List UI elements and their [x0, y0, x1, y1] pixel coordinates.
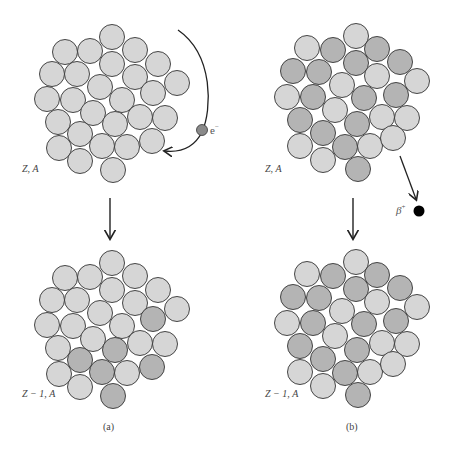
- nucleon: [307, 60, 332, 85]
- nucleon: [46, 110, 71, 135]
- nucleon: [40, 62, 65, 87]
- nucleon: [301, 311, 326, 336]
- nucleus-b-final: [275, 250, 430, 408]
- nucleon: [288, 108, 313, 133]
- nucleon: [275, 311, 300, 336]
- nucleon: [90, 134, 115, 159]
- nucleon: [288, 334, 313, 359]
- beta-decay-diagram: [0, 0, 451, 453]
- nucleon: [68, 375, 93, 400]
- nucleon: [321, 38, 346, 63]
- electron-icon: [197, 125, 208, 136]
- nucleon: [365, 37, 390, 62]
- nucleon: [123, 38, 148, 63]
- nucleon: [65, 288, 90, 313]
- nucleon: [311, 374, 336, 399]
- nucleon: [288, 360, 313, 385]
- nucleon: [68, 122, 93, 147]
- nucleon: [388, 50, 413, 75]
- nucleon: [295, 36, 320, 61]
- nucleon: [344, 250, 369, 275]
- nucleon: [47, 136, 72, 161]
- nucleon: [344, 24, 369, 49]
- nucleon: [81, 101, 106, 126]
- nucleon: [65, 62, 90, 87]
- nucleon: [78, 265, 103, 290]
- nucleon: [323, 98, 348, 123]
- nucleon: [115, 135, 140, 160]
- nucleon: [365, 263, 390, 288]
- label-b-final: Z − 1, A: [265, 388, 298, 399]
- nucleon: [288, 134, 313, 159]
- nucleon: [323, 324, 348, 349]
- nucleon: [100, 278, 125, 303]
- nucleon: [153, 332, 178, 357]
- nucleon: [40, 288, 65, 313]
- electron-label: e−: [210, 123, 219, 136]
- nucleon: [352, 312, 377, 337]
- nucleon: [53, 40, 78, 65]
- nucleon: [101, 384, 126, 409]
- nucleon: [146, 52, 171, 77]
- nucleon: [405, 69, 430, 94]
- label-a-initial: Z, A: [22, 163, 39, 174]
- nucleon: [330, 73, 355, 98]
- nucleon: [333, 135, 358, 160]
- nucleon: [346, 157, 371, 182]
- nucleon: [35, 313, 60, 338]
- nucleon: [35, 87, 60, 112]
- nucleon: [153, 106, 178, 131]
- nucleon: [100, 251, 125, 276]
- nucleon: [330, 299, 355, 324]
- nucleon: [68, 149, 93, 174]
- nucleon: [275, 85, 300, 110]
- nucleon: [311, 121, 336, 146]
- positron-emission-arrow: [400, 156, 416, 199]
- nucleon: [358, 360, 383, 385]
- nucleon: [103, 338, 128, 363]
- nucleon: [346, 383, 371, 408]
- nucleon: [81, 327, 106, 352]
- positron-icon: [414, 206, 425, 217]
- nucleon: [68, 348, 93, 373]
- nucleon: [140, 355, 165, 380]
- nucleon: [281, 285, 306, 310]
- nucleon: [165, 297, 190, 322]
- nucleon: [281, 59, 306, 84]
- caption-b: (b): [346, 421, 358, 432]
- nucleon: [146, 278, 171, 303]
- nucleon: [333, 361, 358, 386]
- nucleon: [128, 105, 153, 130]
- nucleon: [88, 75, 113, 100]
- nucleus-b-initial: [275, 24, 430, 182]
- nucleon: [295, 262, 320, 287]
- nucleon: [358, 134, 383, 159]
- nucleon: [88, 301, 113, 326]
- nucleon: [365, 64, 390, 89]
- nucleon: [301, 85, 326, 110]
- nucleon: [90, 360, 115, 385]
- nucleon: [140, 129, 165, 154]
- nucleon: [311, 148, 336, 173]
- nucleon: [311, 347, 336, 372]
- nucleon: [103, 112, 128, 137]
- nucleon: [381, 352, 406, 377]
- nucleon: [344, 277, 369, 302]
- nucleon: [365, 290, 390, 315]
- nucleon: [101, 158, 126, 183]
- nucleon: [123, 264, 148, 289]
- nucleon: [47, 362, 72, 387]
- nucleon: [100, 52, 125, 77]
- nucleus-a-final: [35, 251, 190, 409]
- nucleon: [384, 309, 409, 334]
- label-b-initial: Z, A: [265, 163, 282, 174]
- nucleon: [46, 336, 71, 361]
- nucleon: [345, 338, 370, 363]
- nucleon: [100, 25, 125, 50]
- nucleon: [307, 286, 332, 311]
- nucleon: [141, 81, 166, 106]
- nucleon: [78, 39, 103, 64]
- nucleon: [344, 51, 369, 76]
- nucleon: [165, 71, 190, 96]
- nucleon: [141, 307, 166, 332]
